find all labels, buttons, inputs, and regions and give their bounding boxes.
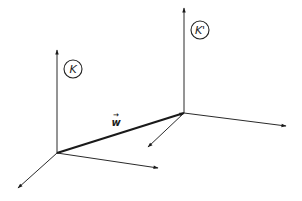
displacement-vector-w: → w — [57, 111, 184, 153]
frame-k-down-left-axis — [18, 153, 57, 188]
vector-w-label: w — [111, 117, 121, 128]
frame-k-label-badge: K — [64, 60, 82, 78]
frame-k-right-axis — [57, 153, 158, 168]
frame-k-prime-label-badge: K' — [191, 21, 209, 39]
frame-k: K — [18, 50, 158, 188]
frames-diagram: K K' → w — [0, 0, 302, 201]
frame-k-prime: K' — [148, 8, 286, 147]
frame-k-label: K — [69, 63, 77, 76]
frame-k-prime-label: K' — [195, 24, 205, 37]
frame-k-prime-right-axis — [184, 113, 286, 126]
